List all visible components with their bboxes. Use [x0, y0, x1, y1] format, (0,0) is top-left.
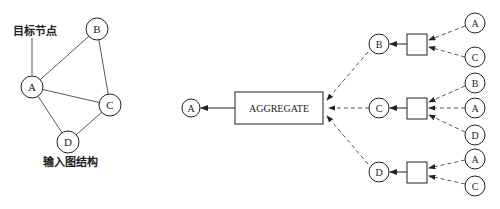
svg-text:D: D: [375, 167, 382, 178]
svg-text:D: D: [471, 130, 478, 141]
aggregate-label: AGGREGATE: [249, 103, 309, 114]
svg-text:C: C: [472, 181, 479, 192]
output-node-label: A: [187, 103, 195, 114]
svg-text:B: B: [472, 78, 479, 89]
node-label: C: [106, 99, 113, 111]
svg-text:A: A: [471, 154, 479, 165]
input-graph-caption: 输入图结构: [43, 155, 98, 168]
node-label: A: [28, 81, 36, 93]
target-node-label: 目标节点: [13, 24, 57, 37]
svg-text:C: C: [472, 52, 479, 63]
node-label: D: [64, 136, 72, 148]
svg-text:A: A: [471, 103, 479, 114]
svg-text:A: A: [471, 18, 479, 29]
node-label: B: [93, 23, 100, 35]
svg-text:C: C: [376, 103, 383, 114]
svg-text:B: B: [376, 39, 383, 50]
gnn-aggregation-diagram: B A C D 目标节点 输入图结构 A AGGREGATE B C D A C…: [0, 0, 500, 209]
